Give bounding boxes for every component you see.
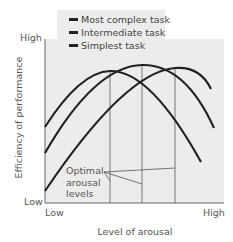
x-tick-high: High: [203, 207, 225, 218]
legend-swatch-icon: [69, 18, 78, 21]
legend-item-intermediate: Intermediate task: [69, 27, 165, 39]
x-axis-label: Level of arousal: [80, 226, 190, 237]
legend-item-most-complex: Most complex task: [69, 14, 170, 26]
annotation-optimal-arousal: Optimal arousal levels: [66, 165, 104, 200]
legend-swatch-icon: [69, 44, 78, 47]
y-axis-label: Efficiency of performance: [13, 69, 24, 179]
x-tick-low: Low: [45, 207, 64, 218]
legend: Most complex task Intermediate task Simp…: [57, 10, 165, 56]
y-tick-high: High: [20, 32, 42, 43]
legend-item-simplest: Simplest task: [69, 40, 145, 52]
chart: Most complex task Intermediate task Simp…: [0, 0, 233, 242]
legend-swatch-icon: [69, 31, 78, 34]
y-tick-low: Low: [24, 196, 43, 207]
